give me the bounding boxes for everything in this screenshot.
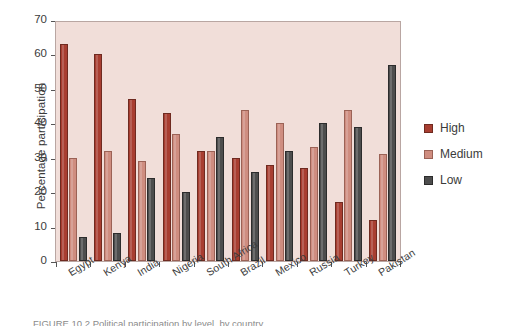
- bar-pakistan-low: [388, 65, 396, 261]
- bar-highlight: [390, 66, 392, 260]
- bar-nigeria-high: [163, 113, 171, 261]
- bar-group: [297, 22, 331, 261]
- legend-label: High: [440, 121, 465, 135]
- bar-mexico-medium: [276, 123, 284, 261]
- bar-nigeria-low: [182, 192, 190, 261]
- bar-highlight: [268, 166, 270, 260]
- y-tick-label: 40: [34, 116, 47, 128]
- bar-india-medium: [138, 161, 146, 261]
- bar-egypt-high: [60, 44, 68, 261]
- legend-swatch-icon: [424, 150, 433, 159]
- bar-highlight: [62, 45, 64, 260]
- bar-group: [125, 22, 159, 261]
- bar-highlight: [115, 234, 117, 260]
- bar-group: [159, 22, 193, 261]
- legend-swatch-icon: [424, 124, 433, 133]
- bar-highlight: [356, 128, 358, 260]
- y-tick-label: 50: [34, 82, 47, 94]
- legend-label: Low: [440, 173, 462, 187]
- bar-india-low: [147, 178, 155, 261]
- bar-brazil-medium: [241, 110, 249, 261]
- bar-russia-high: [300, 168, 308, 261]
- bar-highlight: [184, 193, 186, 260]
- bar-highlight: [149, 179, 151, 260]
- bar-mexico-high: [266, 165, 274, 261]
- y-tick-label: 10: [34, 220, 47, 232]
- chart-legend: HighMediumLow: [424, 115, 506, 193]
- bar-highlight: [199, 152, 201, 260]
- bar-highlight: [209, 152, 211, 260]
- y-tick-label: 20: [34, 185, 47, 197]
- y-tick-label: 30: [34, 151, 47, 163]
- bar-highlight: [302, 169, 304, 260]
- bar-russia-medium: [310, 147, 318, 261]
- bar-highlight: [130, 100, 132, 260]
- bar-egypt-medium: [69, 158, 77, 261]
- bar-russia-low: [319, 123, 327, 261]
- legend-item-medium[interactable]: Medium: [424, 141, 506, 167]
- bar-highlight: [234, 159, 236, 260]
- bar-highlight: [321, 124, 323, 260]
- bar-highlight: [71, 159, 73, 260]
- bar-group: [366, 22, 400, 261]
- bar-highlight: [381, 155, 383, 260]
- bar-south-africa-medium: [207, 151, 215, 261]
- y-tick-label: 60: [34, 47, 47, 59]
- legend-label: Medium: [440, 147, 483, 161]
- bar-highlight: [174, 135, 176, 260]
- bar-highlight: [165, 114, 167, 260]
- x-tick-mark: [56, 262, 57, 267]
- bar-highlight: [337, 203, 339, 260]
- bar-highlight: [218, 138, 220, 260]
- bar-group: [56, 22, 90, 261]
- bar-group: [194, 22, 228, 261]
- bar-group: [228, 22, 262, 261]
- y-tick-label: 70: [34, 13, 47, 25]
- figure-container: Percentage participation 706050403020100…: [0, 0, 509, 326]
- bar-kenya-high: [94, 54, 102, 261]
- bar-turkey-low: [354, 127, 362, 261]
- bar-highlight: [106, 152, 108, 260]
- bar-south-africa-low: [216, 137, 224, 261]
- bar-highlight: [96, 55, 98, 260]
- bar-highlight: [278, 124, 280, 260]
- legend-item-low[interactable]: Low: [424, 167, 506, 193]
- legend-swatch-icon: [424, 176, 433, 185]
- bar-highlight: [140, 162, 142, 260]
- bar-highlight: [346, 111, 348, 260]
- legend-item-high[interactable]: High: [424, 115, 506, 141]
- bar-pakistan-medium: [379, 154, 387, 261]
- bar-highlight: [287, 152, 289, 260]
- bar-nigeria-medium: [172, 134, 180, 261]
- bar-kenya-medium: [104, 151, 112, 261]
- bar-series-group: [56, 22, 400, 261]
- bar-mexico-low: [285, 151, 293, 261]
- bar-group: [331, 22, 365, 261]
- bar-group: [90, 22, 124, 261]
- bar-turkey-medium: [344, 110, 352, 261]
- bar-south-africa-high: [197, 151, 205, 261]
- bar-highlight: [312, 148, 314, 260]
- bar-highlight: [243, 111, 245, 260]
- figure-caption: FIGURE 10.2 Political participation by l…: [33, 318, 503, 326]
- y-tick-label: 0: [41, 254, 47, 266]
- bar-group: [262, 22, 296, 261]
- bar-india-high: [128, 99, 136, 261]
